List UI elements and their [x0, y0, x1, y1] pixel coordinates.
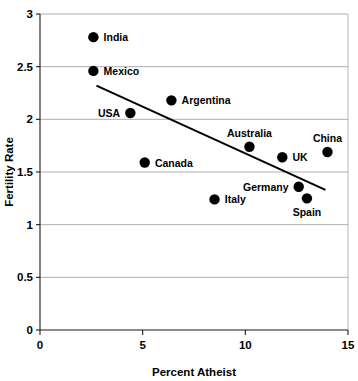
point-label-australia: Australia: [227, 127, 272, 139]
data-point-mexico: [88, 66, 98, 76]
point-label-uk: UK: [292, 151, 308, 163]
data-point-spain: [302, 193, 312, 203]
x-tick-label-10: 10: [239, 339, 252, 351]
x-axis-title: Percent Atheist: [152, 366, 236, 378]
x-tick-label-15: 15: [342, 339, 355, 351]
data-point-uk: [277, 152, 287, 162]
chart-canvas: 00.511.522.53 051015 IndiaMexicoUSAArgen…: [0, 0, 358, 381]
data-point-germany: [294, 182, 304, 192]
y-tick-label-0.5: 0.5: [17, 271, 34, 283]
y-tick-label-3: 3: [27, 8, 33, 20]
point-label-argentina: Argentina: [182, 94, 231, 106]
data-point-italy: [209, 194, 219, 204]
scatter-chart: 00.511.522.53 051015 IndiaMexicoUSAArgen…: [0, 0, 358, 381]
y-axis-title: Fertility Rate: [3, 137, 15, 207]
point-label-usa: USA: [98, 107, 121, 119]
x-tick-label-0: 0: [37, 339, 43, 351]
point-label-china: China: [313, 132, 342, 144]
point-label-germany: Germany: [243, 181, 289, 193]
chart-background: [0, 0, 358, 381]
y-tick-label-1.5: 1.5: [17, 166, 34, 178]
data-point-australia: [244, 142, 254, 152]
point-label-italy: Italy: [225, 193, 246, 205]
data-point-usa: [125, 108, 135, 118]
point-label-india: India: [104, 31, 129, 43]
y-tick-label-2.5: 2.5: [17, 61, 34, 73]
data-point-china: [322, 147, 332, 157]
y-tick-label-0: 0: [27, 324, 33, 336]
x-tick-label-5: 5: [139, 339, 146, 351]
point-label-mexico: Mexico: [104, 65, 140, 77]
data-point-canada: [140, 157, 150, 167]
data-point-india: [88, 32, 98, 42]
y-tick-label-2: 2: [27, 113, 33, 125]
point-label-spain: Spain: [293, 206, 322, 218]
point-label-canada: Canada: [155, 157, 193, 169]
y-tick-label-1: 1: [27, 219, 34, 231]
data-point-argentina: [166, 95, 176, 105]
